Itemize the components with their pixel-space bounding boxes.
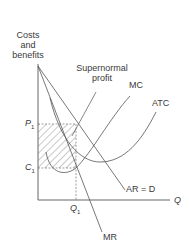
ar-label: AR = D: [126, 184, 155, 194]
p-subscript: 1: [31, 124, 34, 130]
x-axis-label: Q: [174, 195, 181, 205]
q1-subscript: 1: [77, 209, 80, 215]
c-subscript: 1: [32, 168, 35, 174]
c1-label: C1: [25, 162, 35, 176]
y-axis-label-line2: and: [8, 40, 48, 50]
annotation-line2: profit: [72, 73, 132, 83]
annotation-pointer: [72, 92, 96, 136]
atc-label: ATC: [152, 98, 169, 108]
mr-label: MR: [103, 232, 117, 242]
supernormal-profit-area: [38, 124, 76, 168]
supernormal-profit-label: Supernormal profit: [72, 63, 132, 83]
y-axis-label: Costs and benefits: [8, 30, 48, 60]
q1-label: Q1: [70, 203, 80, 217]
mc-label: MC: [129, 80, 143, 90]
annotation-line1: Supernormal: [72, 63, 132, 73]
y-axis-label-line1: Costs: [8, 30, 48, 40]
q1-symbol: Q: [70, 203, 77, 213]
y-axis-label-line3: benefits: [8, 50, 48, 60]
p1-label: P1: [25, 118, 34, 132]
